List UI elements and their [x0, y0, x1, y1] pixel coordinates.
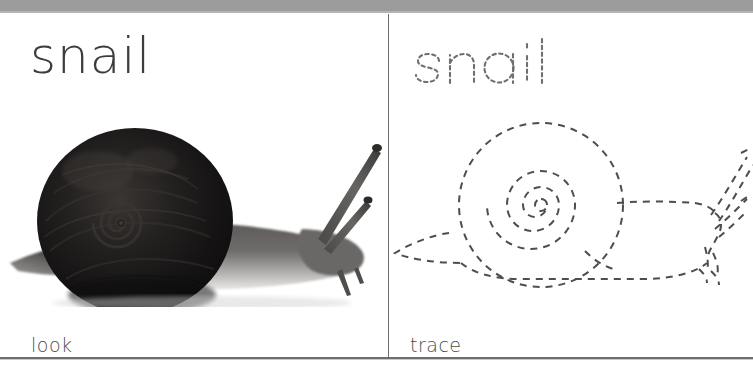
panel-look: snail: [0, 13, 388, 357]
word-snail-solid: snail: [30, 31, 151, 81]
snail-photo: [2, 117, 388, 307]
caption-look: look: [31, 336, 73, 355]
below-rule-area: [0, 360, 753, 377]
worksheet-page: snail: [0, 0, 753, 377]
caption-trace: trace: [410, 336, 462, 355]
snail-trace-outline: [389, 113, 753, 313]
word-snail-traced: [412, 33, 592, 103]
panel-divider: [388, 14, 389, 358]
panel-trace: trace: [389, 13, 753, 357]
